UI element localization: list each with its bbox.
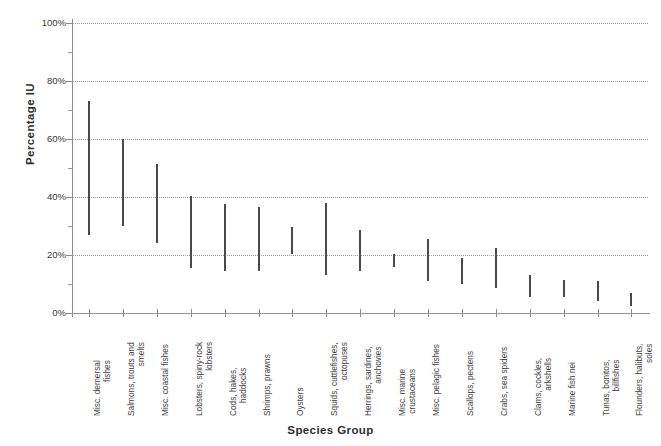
y-axis-tick-label: 80% <box>20 75 66 86</box>
range-bar <box>224 204 226 271</box>
x-axis-category-label: Marine fish nei <box>568 362 578 416</box>
category-label-line: lobsters <box>204 342 214 416</box>
range-bar <box>630 293 632 306</box>
x-axis-category-label: Squids, cuttlefishes,octopuses <box>330 342 349 416</box>
x-axis-category-label: Cods, hakes,haddocks <box>229 368 248 416</box>
x-axis-category-label: Salmons, trouts andsmelts <box>127 342 146 416</box>
category-label-line: crustaceans <box>408 369 418 416</box>
range-bar <box>563 280 565 297</box>
x-tick <box>360 309 361 317</box>
category-label-line: Oysters <box>296 387 306 416</box>
range-bar <box>190 196 192 269</box>
x-axis-category-label: Scallops, pectens <box>466 351 476 416</box>
x-tick <box>428 309 429 317</box>
range-bar <box>88 101 90 234</box>
range-bar <box>122 139 124 226</box>
x-axis-category-label: Herrings, sardines,anchovies <box>364 346 383 416</box>
category-label-line: soles <box>645 344 655 416</box>
x-axis-category-label: Flounders, halibuts,soles <box>635 344 654 416</box>
x-tick <box>564 309 565 317</box>
category-label-line: Marine fish nei <box>568 362 578 416</box>
category-label-line: Crabs, sea spiders <box>500 347 510 416</box>
x-axis-category-label: Oysters <box>296 387 306 416</box>
x-tick <box>225 309 226 317</box>
category-label-line: Tunas, bonitos, <box>602 360 612 416</box>
y-axis-tick-label: 60% <box>20 133 66 144</box>
x-tick <box>394 309 395 317</box>
x-axis-category-label: Misc. coastal fishes <box>161 344 171 416</box>
x-tick <box>496 309 497 317</box>
x-tick <box>157 309 158 317</box>
x-tick <box>191 309 192 317</box>
x-axis-category-label: Shrimps, prawns <box>263 354 273 416</box>
range-bar <box>427 239 429 281</box>
x-axis-category-label: Misc. demersalfishes <box>93 360 112 416</box>
chart-container: Percentage IU 100%80%60%40%20%0% Misc. d… <box>0 0 661 446</box>
category-label-line: Lobsters, spiny-rock <box>195 342 205 416</box>
category-label-line: smelts <box>136 342 146 416</box>
category-label-line: Misc. pelagic fishes <box>432 344 442 416</box>
range-bar <box>529 275 531 297</box>
x-tick <box>259 309 260 317</box>
category-label-line: Cods, hakes, <box>229 368 239 416</box>
y-axis-tick-label: 0% <box>20 307 66 318</box>
x-axis-category-label: Tunas, bonitos,billfishes <box>602 360 621 416</box>
range-bar <box>495 248 497 289</box>
y-axis-tick-label: 40% <box>20 191 66 202</box>
x-tick <box>631 309 632 317</box>
y-axis-tick-label: 100% <box>20 17 66 28</box>
category-label-line: Clams, cockles, <box>534 358 544 416</box>
x-axis-title: Species Group <box>0 424 661 436</box>
x-tick <box>326 309 327 317</box>
category-label-line: Shrimps, prawns <box>263 354 273 416</box>
gridline-100 <box>72 23 648 24</box>
y-axis-title: Percentage IU <box>24 34 36 214</box>
x-axis-category-label: Misc. pelagic fishes <box>432 344 442 416</box>
x-tick <box>530 309 531 317</box>
gridline-80 <box>72 81 648 82</box>
category-label-line: Misc. coastal fishes <box>161 344 171 416</box>
x-axis-category-label: Lobsters, spiny-rocklobsters <box>195 342 214 416</box>
x-axis-category-label: Clams, cockles,arkshells <box>534 358 553 416</box>
x-tick <box>123 309 124 317</box>
x-tick <box>598 309 599 317</box>
range-bar <box>325 203 327 276</box>
category-label-line: octopuses <box>340 342 350 416</box>
category-label-line: Scallops, pectens <box>466 351 476 416</box>
range-bar <box>359 230 361 271</box>
x-tick <box>89 309 90 317</box>
category-label-line: anchovies <box>374 346 384 416</box>
range-bar <box>156 164 158 244</box>
y-axis-tick-label: 20% <box>20 249 66 260</box>
plot-area <box>72 23 648 313</box>
gridline-60 <box>72 139 648 140</box>
range-bar <box>258 207 260 271</box>
range-bar <box>291 227 293 253</box>
category-label-line: haddocks <box>238 368 248 416</box>
range-bar <box>461 258 463 284</box>
category-label-line: billfishes <box>611 360 621 416</box>
x-tick <box>292 309 293 317</box>
x-axis-category-label: Crabs, sea spiders <box>500 347 510 416</box>
x-axis-category-label: Misc. marinecrustaceans <box>398 369 417 416</box>
category-label-line: arkshells <box>543 358 553 416</box>
category-label-line: fishes <box>103 360 113 416</box>
x-tick <box>462 309 463 317</box>
range-bar <box>597 281 599 301</box>
range-bar <box>393 254 395 267</box>
gridline-40 <box>72 197 648 198</box>
